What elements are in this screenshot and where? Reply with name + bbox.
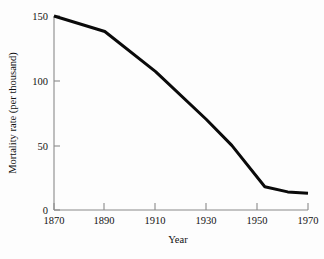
x-tick-label-1970: 1970	[298, 215, 319, 226]
y-tick-label-100: 100	[32, 76, 48, 87]
x-tick-label-1870: 1870	[44, 215, 65, 226]
chart-container: 150 100 50 0 1870 1890 1910 1930 1950 19…	[0, 0, 324, 259]
x-tick-label-1950: 1950	[247, 215, 268, 226]
x-tick-label-1930: 1930	[196, 215, 217, 226]
x-tick-label-1910: 1910	[145, 215, 166, 226]
y-tick-label-150: 150	[32, 11, 48, 22]
x-tick-label-1890: 1890	[94, 215, 115, 226]
y-tick-label-50: 50	[38, 141, 49, 152]
y-axis-title: Mortality rate (per thousand)	[7, 52, 19, 174]
x-axis-title: Year	[168, 234, 188, 245]
mortality-rate-line-chart: 150 100 50 0 1870 1890 1910 1930 1950 19…	[0, 0, 324, 259]
